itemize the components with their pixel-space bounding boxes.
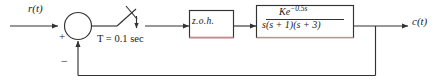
summing-junction-circle	[65, 13, 92, 40]
sampler-period-label: T = 0.1 sec	[97, 34, 144, 45]
diagram-vector-layer	[0, 0, 443, 83]
plant-numerator: Ke−0.5s	[279, 5, 307, 17]
output-signal-label: c(t)	[412, 16, 427, 27]
plant-numerator-base: Ke	[279, 6, 290, 17]
plant-numerator-exponent: −0.5s	[290, 4, 307, 13]
zero-order-hold-label: z.o.h.	[192, 17, 214, 27]
input-signal-label: r(t)	[28, 3, 43, 14]
sampler-switch-arm	[117, 9, 136, 26]
summing-junction-minus-sign: −	[61, 55, 68, 67]
block-diagram-canvas: r(t) c(t) + − T = 0.1 sec z.o.h. Ke−0.5s…	[0, 0, 443, 83]
summing-junction-plus-sign: +	[59, 31, 65, 42]
plant-denominator: s(s + 1)(s + 3)	[262, 20, 321, 30]
